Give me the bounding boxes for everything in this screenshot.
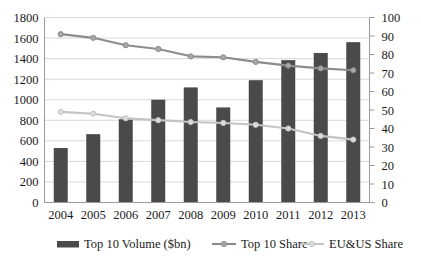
chart-container: 020040060080010001200140016001800 010203…: [0, 0, 421, 262]
data-point-2005: [91, 111, 96, 116]
data-point-2006: [123, 116, 128, 121]
x-axis-tick-label-2011: 2011: [276, 208, 301, 222]
right-axis-tick-label: 80: [382, 48, 395, 62]
data-point-2009: [221, 120, 226, 125]
data-point-2004: [58, 32, 63, 37]
x-axis-tick-label-2009: 2009: [211, 208, 236, 222]
data-point-2010: [253, 59, 258, 64]
bar-2012: [314, 53, 328, 203]
bar-2008: [184, 87, 198, 202]
legend-marker: [221, 241, 226, 246]
bar-2006: [119, 119, 133, 202]
legend-label: EU&US Share: [329, 237, 403, 251]
right-axis-tick-label: 70: [382, 67, 395, 81]
x-axis-tick-label-2005: 2005: [81, 208, 106, 222]
left-axis-tick-label: 200: [20, 175, 39, 189]
x-axis-tick-label-2006: 2006: [113, 208, 138, 222]
x-axis-tick-label-2008: 2008: [178, 208, 203, 222]
right-axis-tick-label: 30: [382, 141, 395, 155]
left-axis-tick-label: 1800: [14, 11, 39, 25]
data-point-2011: [286, 63, 291, 68]
bar-2013: [346, 42, 360, 202]
x-axis-tick-label-2010: 2010: [243, 208, 268, 222]
data-point-2012: [318, 133, 323, 138]
left-axis-tick-label: 1600: [14, 32, 39, 46]
data-point-2011: [286, 126, 291, 131]
right-axis-tick-label: 50: [382, 104, 395, 118]
right-axis-tick-label: 100: [382, 11, 401, 25]
right-axis-tick-label: 60: [382, 85, 395, 99]
bar-2005: [86, 134, 100, 202]
data-point-2007: [156, 46, 161, 51]
data-point-2008: [188, 54, 193, 59]
legend-label: Top 10 Share: [241, 237, 308, 251]
data-point-2006: [123, 43, 128, 48]
left-axis-tick-label: 800: [20, 114, 39, 128]
legend-label: Top 10 Volume ($bn): [84, 237, 191, 251]
x-axis-tick-label-2012: 2012: [308, 208, 333, 222]
bar-2010: [249, 80, 263, 202]
data-point-2012: [318, 66, 323, 71]
right-axis-tick-label: 40: [382, 122, 395, 136]
left-axis-tick-label: 1400: [14, 52, 39, 66]
data-point-2013: [351, 68, 356, 73]
right-axis-tick-label: 90: [382, 30, 395, 44]
data-point-2013: [351, 137, 356, 142]
left-axis-tick-label: 400: [20, 155, 39, 169]
data-point-2007: [156, 118, 161, 123]
data-point-2005: [91, 35, 96, 40]
data-point-2010: [253, 122, 258, 127]
legend-marker: [309, 241, 314, 246]
x-axis-tick-label-2013: 2013: [341, 208, 366, 222]
left-axis-tick-label: 600: [20, 134, 39, 148]
left-axis-tick-label: 0: [32, 196, 38, 210]
right-axis-tick-label: 0: [382, 196, 388, 210]
right-axis-tick-label: 10: [382, 178, 395, 192]
combo-chart: 020040060080010001200140016001800 010203…: [0, 0, 421, 262]
bar-2007: [151, 100, 165, 203]
data-point-2008: [188, 119, 193, 124]
right-axis-tick-label: 20: [382, 159, 395, 173]
legend-swatch-bar: [57, 241, 79, 248]
x-axis-tick-label-2007: 2007: [146, 208, 171, 222]
x-axis-tick-label-2004: 2004: [48, 208, 74, 222]
left-axis-tick-label: 1000: [14, 93, 39, 107]
left-axis-tick-label: 1200: [14, 73, 39, 87]
data-point-2004: [58, 109, 63, 114]
bar-2004: [54, 148, 68, 202]
data-point-2009: [221, 55, 226, 60]
